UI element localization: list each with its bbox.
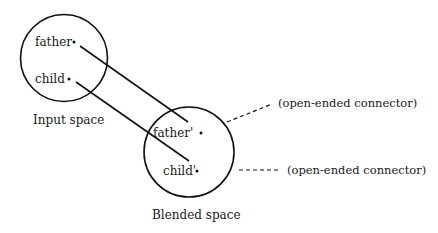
- blended-space-label: Blended space: [152, 208, 241, 222]
- child-label: child: [35, 72, 65, 86]
- connector-father: [80, 46, 188, 122]
- open-connector-label-1: (open-ended connector): [278, 96, 417, 110]
- child-dot: [68, 78, 71, 81]
- father-dot: [73, 41, 76, 44]
- input-space-circle: [21, 15, 108, 102]
- blended-space-circle: [144, 107, 234, 197]
- father-prime-label: father': [153, 126, 193, 140]
- father-prime-dot: [200, 132, 203, 135]
- open-connector-1: [227, 104, 272, 122]
- open-connector-label-2: (open-ended connector): [287, 163, 426, 177]
- father-label: father: [35, 35, 72, 49]
- child-prime-label: child': [163, 164, 196, 178]
- input-space-label: Input space: [33, 113, 104, 127]
